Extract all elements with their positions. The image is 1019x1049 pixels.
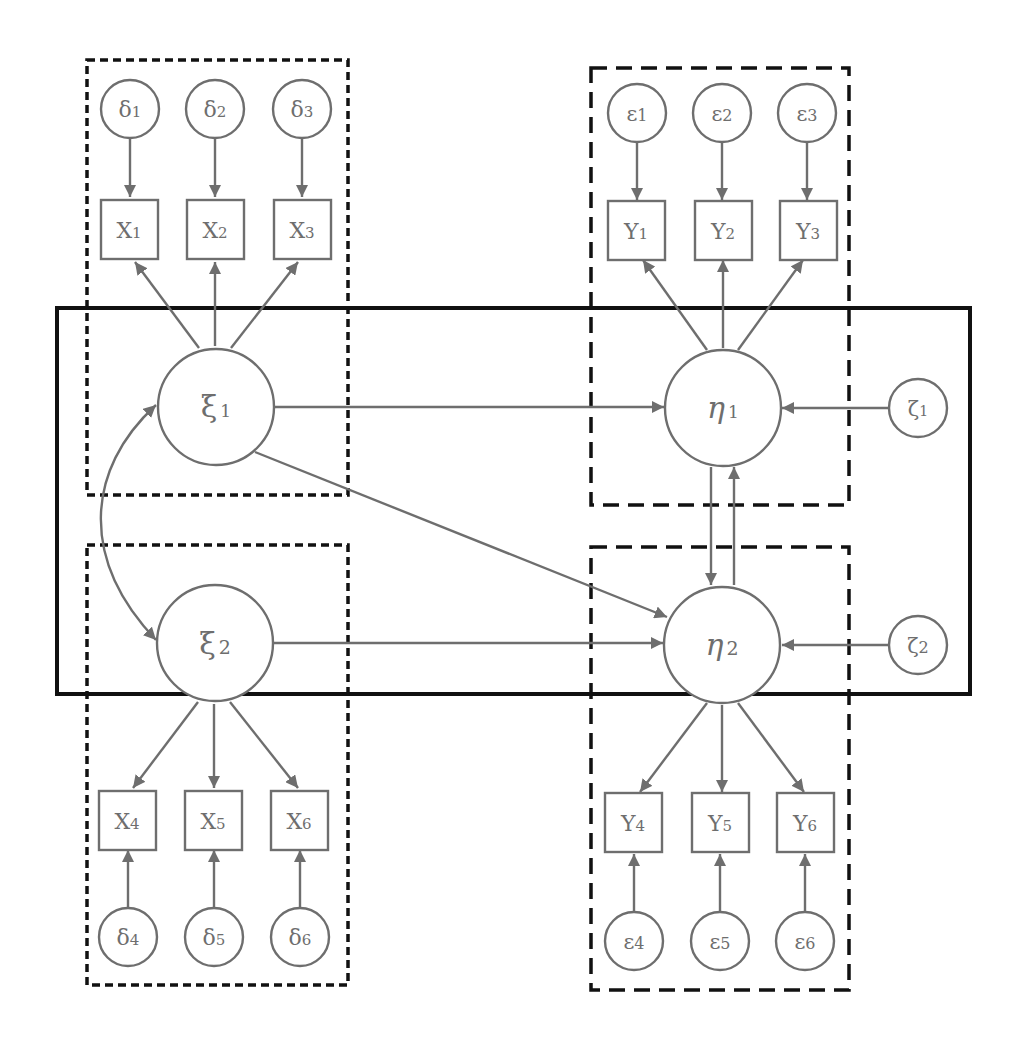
svg-text:ε4: ε4 (623, 930, 644, 954)
svg-text:ε1: ε1 (626, 102, 647, 126)
svg-text:ε5: ε5 (709, 930, 730, 954)
node-zeta1: ζ1 (889, 379, 947, 437)
node-xi1: ξ1 (158, 349, 274, 465)
node-delta1: δ1 (101, 80, 159, 138)
node-X4: X4 (99, 791, 156, 850)
node-xi2: ξ2 (157, 585, 273, 701)
node-delta5: δ5 (185, 908, 243, 966)
node-eps3: ε3 (778, 84, 836, 142)
node-eps1: ε1 (608, 84, 666, 142)
node-eps5: ε5 (691, 912, 749, 970)
node-X6: X6 (271, 791, 328, 850)
svg-text:ε3: ε3 (796, 102, 817, 126)
node-delta3: δ3 (273, 80, 331, 138)
edge-eta2-Y4 (640, 703, 707, 792)
node-eta2: η2 (664, 587, 780, 703)
edge-eta1-Y1 (643, 260, 707, 350)
node-eps4: ε4 (605, 912, 663, 970)
node-Y1: Y1 (608, 201, 665, 260)
node-Y2: Y2 (695, 201, 752, 260)
edge-xi1-X1 (135, 262, 199, 348)
edge-xi1-eta2 (255, 452, 667, 617)
sem-path-diagram: δ1 δ2 δ3 X1 X2 X3 ε1 ε2 ε3 Y1 Y2 (0, 0, 1019, 1049)
edge-xi2-X4 (133, 702, 198, 788)
edge-xi1-xi2-covariance (101, 405, 156, 640)
node-zeta2: ζ2 (889, 616, 947, 674)
node-Y6: Y6 (777, 793, 834, 852)
node-delta6: δ6 (271, 908, 329, 966)
node-X2: X2 (187, 200, 244, 259)
svg-text:ζ2: ζ2 (907, 634, 929, 658)
edge-eta1-Y3 (738, 260, 803, 350)
edge-eta2-Y6 (738, 703, 804, 792)
node-X5: X5 (185, 791, 242, 850)
node-delta2: δ2 (186, 80, 244, 138)
node-X3: X3 (274, 200, 331, 259)
node-Y3: Y3 (780, 201, 837, 260)
node-Y5: Y5 (692, 793, 749, 852)
node-Y4: Y4 (605, 793, 662, 852)
node-eps6: ε6 (776, 912, 834, 970)
edge-xi1-X3 (231, 262, 298, 348)
svg-text:ε6: ε6 (794, 930, 815, 954)
node-eta1: η1 (665, 350, 781, 466)
svg-text:ε2: ε2 (711, 102, 732, 126)
node-eps2: ε2 (693, 84, 751, 142)
edge-xi2-X6 (230, 702, 298, 788)
node-X1: X1 (101, 200, 158, 259)
node-delta4: δ4 (99, 908, 157, 966)
